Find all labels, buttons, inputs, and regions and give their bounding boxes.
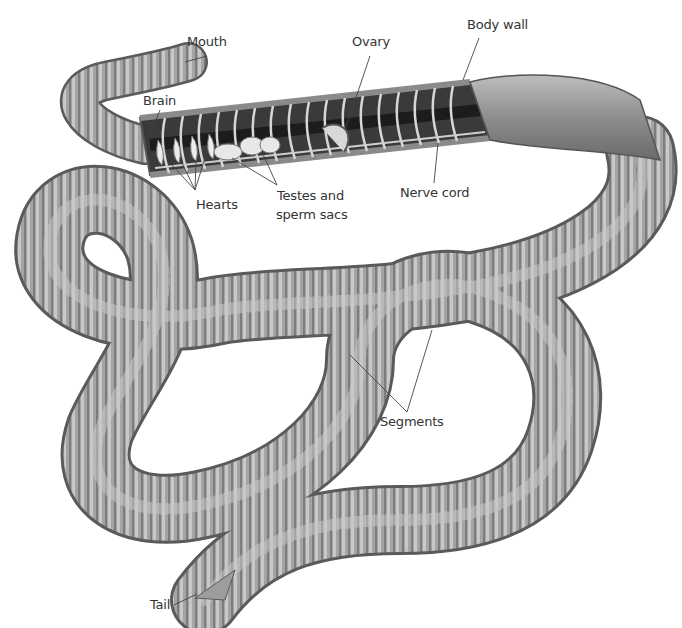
label-testes-line2: sperm sacs — [276, 207, 348, 222]
label-tail: Tail — [150, 597, 170, 612]
label-testes-line1: Testes and — [277, 188, 344, 203]
label-brain: Brain — [143, 93, 176, 108]
nerve-cord-leader — [434, 143, 438, 183]
label-ovary: Ovary — [352, 34, 390, 49]
earthworm-illustration — [0, 0, 682, 628]
label-nerve-cord: Nerve cord — [400, 185, 469, 200]
label-mouth: Mouth — [187, 34, 227, 49]
clitellum — [470, 75, 660, 160]
label-hearts: Hearts — [196, 197, 238, 212]
label-segments: Segments — [380, 414, 444, 429]
body-wall-leader — [463, 38, 479, 80]
dissected-section — [140, 75, 660, 175]
earthworm-diagram: Mouth Brain Hearts Testes and sperm sacs… — [0, 0, 682, 628]
label-body-wall: Body wall — [467, 17, 528, 32]
